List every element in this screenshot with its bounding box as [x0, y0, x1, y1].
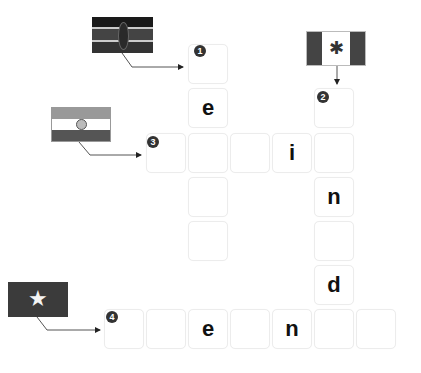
cell-letter: d — [315, 272, 353, 298]
clue-number-1: 1 — [194, 45, 206, 57]
grid-cell[interactable] — [188, 221, 228, 261]
cell-letter: e — [189, 316, 227, 342]
grid-cell[interactable] — [314, 133, 354, 173]
grid-cell[interactable] — [356, 309, 396, 349]
clue-number-3: 3 — [147, 136, 159, 148]
grid-cell[interactable]: e — [188, 88, 228, 128]
grid-cell[interactable]: n — [272, 309, 312, 349]
grid-cell[interactable]: d — [314, 265, 354, 305]
grid-cell[interactable]: n — [314, 177, 354, 217]
grid-cell[interactable] — [146, 309, 186, 349]
grid-cell[interactable]: e — [188, 309, 228, 349]
grid-cell[interactable] — [314, 221, 354, 261]
cell-letter: n — [273, 316, 311, 342]
grid-cell[interactable]: i — [272, 133, 312, 173]
grid-cell[interactable] — [314, 309, 354, 349]
grid-cell[interactable] — [230, 309, 270, 349]
grid-cell[interactable] — [188, 177, 228, 217]
grid-cell[interactable] — [230, 133, 270, 173]
cell-letter: i — [273, 140, 311, 166]
cell-letter: n — [315, 184, 353, 210]
clue-number-4: 4 — [106, 311, 118, 323]
cell-letter: e — [189, 95, 227, 121]
clue-number-2: 2 — [317, 91, 329, 103]
grid-cell[interactable] — [188, 133, 228, 173]
